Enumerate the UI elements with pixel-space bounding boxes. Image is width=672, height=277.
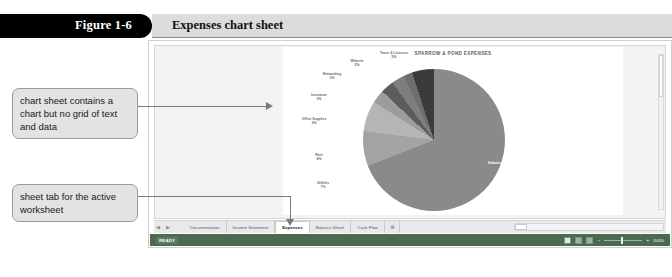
sheet-tab-cash-flow[interactable]: Cash Flow	[351, 221, 385, 233]
plus-icon[interactable]: +	[646, 238, 649, 243]
figure-header: Figure 1-6 Expenses chart sheet	[0, 14, 672, 38]
callout-tab-arrowhead	[286, 219, 294, 226]
figure-caption-band: Expenses chart sheet	[152, 14, 672, 38]
callout-chart-arrowhead	[266, 102, 273, 110]
pie-chart[interactable]: Taxes & Licenses 5% Website 2% Networkin…	[363, 69, 505, 211]
excel-window: SPARROW & POND EXPENSES Taxes & Licenses…	[148, 40, 672, 248]
figure-caption-text: Expenses chart sheet	[172, 18, 283, 33]
sheet-tab-balance-sheet[interactable]: Balance Sheet	[310, 221, 352, 233]
pie-label-salaries-benefits: Salaries and Benefits 69%	[475, 161, 535, 170]
zoom-slider[interactable]	[604, 240, 642, 241]
zoom-slider-handle[interactable]	[621, 237, 623, 244]
chart-plot-surface[interactable]: SPARROW & POND EXPENSES Taxes & Licenses…	[283, 47, 623, 215]
horizontal-scrollbar-thumb[interactable]	[515, 224, 527, 230]
pie-label-website: Website 2%	[337, 59, 377, 68]
pie-label-office-supplies: Office Supplies 3%	[287, 117, 341, 126]
pie-label-networking: Networking 3%	[309, 72, 355, 81]
triangle-right-icon[interactable]: ▶	[166, 223, 171, 231]
page-break-view-icon[interactable]	[586, 237, 593, 244]
vertical-scrollbar[interactable]	[658, 54, 664, 210]
vertical-scrollbar-thumb[interactable]	[659, 55, 663, 97]
figure-tag-pill: Figure 1-6	[0, 14, 152, 38]
pie-label-rent: Rent 8%	[301, 153, 337, 162]
callout-sheet-tab: sheet tab for the active worksheet	[12, 184, 138, 222]
page-layout-icon[interactable]	[575, 237, 582, 244]
callout-tab-leader-horizontal	[138, 196, 290, 197]
normal-view-icon[interactable]	[564, 237, 571, 244]
sheet-tab-income-statement[interactable]: Income Statement	[227, 221, 276, 233]
sheet-tab-bar: ◀ ▶ Documentation Income Statement Expen…	[154, 220, 666, 233]
figure-divider	[152, 37, 672, 38]
status-bar: READY − + 100%	[150, 234, 670, 246]
triangle-left-icon[interactable]: ◀	[156, 223, 161, 231]
chart-title: SPARROW & POND EXPENSES	[283, 51, 623, 56]
zoom-level-label: 100%	[653, 238, 664, 243]
pie-slices	[363, 69, 505, 211]
sheet-tab-documentation[interactable]: Documentation	[184, 221, 227, 233]
plus-circle-icon[interactable]: ⊕	[385, 221, 400, 233]
chart-sheet-canvas[interactable]: SPARROW & POND EXPENSES Taxes & Licenses…	[154, 45, 666, 219]
callout-chart-sheet: chart sheet contains a chart but no grid…	[12, 88, 138, 139]
callout-chart-leader-line	[138, 106, 268, 107]
pie-label-utilities: Utilities 7%	[303, 181, 343, 190]
minus-icon[interactable]: −	[597, 238, 600, 243]
callout-tab-leader-vertical	[290, 196, 291, 220]
figure-tag-label: Figure 1-6	[75, 18, 132, 33]
horizontal-scrollbar[interactable]	[514, 223, 664, 231]
sheet-nav-arrows[interactable]: ◀ ▶	[156, 223, 171, 231]
status-bar-right-group: − + 100%	[564, 237, 664, 244]
status-badge: READY	[156, 237, 178, 244]
pie-label-insurance: Insurance 3%	[297, 93, 341, 102]
